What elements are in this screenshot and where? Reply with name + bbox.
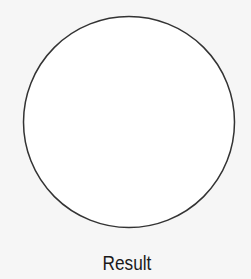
result-circle bbox=[0, 0, 251, 279]
diagram-canvas: Result bbox=[0, 0, 251, 279]
circle-caption: Result bbox=[23, 251, 231, 275]
circle-shape bbox=[24, 17, 235, 228]
